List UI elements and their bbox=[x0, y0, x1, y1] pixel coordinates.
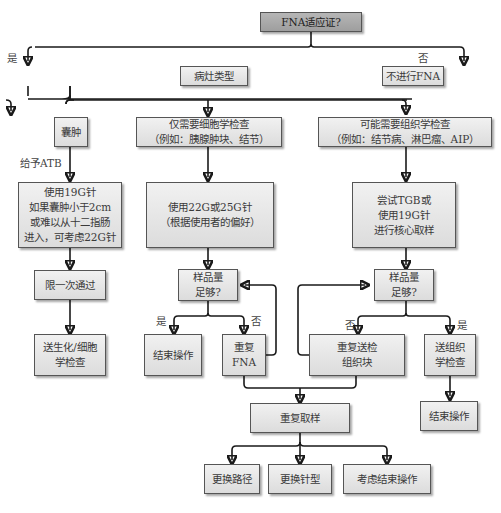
cytology-adequate-node: 样品量 足够? bbox=[178, 269, 238, 301]
change-route-node: 更换路径 bbox=[204, 464, 260, 494]
cytology-end-node: 结束操作 bbox=[144, 334, 202, 376]
histology-needle-node: 尝试TGB或 使用19G针 进行核心取样 bbox=[352, 182, 456, 248]
histology-yes-label: 是 bbox=[457, 317, 467, 332]
root-no-label: 否 bbox=[418, 50, 428, 65]
consider-end-node: 考虑结束操作 bbox=[343, 464, 431, 494]
lesion-type-node: 病灶类型 bbox=[180, 66, 248, 86]
histology-needed-node: 可能需要组织学检查 （例如：结节病、淋巴瘤、AIP） bbox=[318, 117, 492, 147]
cytology-only-node: 仅需要细胞学检查 （例如：胰腺肿块、结节） bbox=[136, 117, 282, 147]
single-pass-node: 限一次通过 bbox=[34, 270, 106, 300]
resample-node: 重复取样 bbox=[250, 403, 350, 433]
cyst-needle-node: 使用19G针 如果囊肿小于2cm 或难以从十二指肠 进入，可考虑22G针 bbox=[18, 182, 122, 248]
fna-indication-node: FNA适应证? bbox=[260, 12, 362, 32]
change-needle-node: 更换针型 bbox=[268, 464, 332, 494]
antibiotics-label: 给予ATB bbox=[20, 155, 62, 170]
histology-no-label: 否 bbox=[345, 317, 355, 332]
root-yes-label: 是 bbox=[7, 50, 17, 65]
cyst-node: 囊肿 bbox=[54, 117, 88, 147]
cytology-yes-label: 是 bbox=[156, 313, 166, 328]
cytology-needle-node: 使用22G或25G针 （根据使用者的偏好） bbox=[146, 182, 274, 248]
send-biochem-cytology-node: 送生化/细胞 学检查 bbox=[34, 334, 106, 376]
cytology-no-label: 否 bbox=[251, 313, 261, 328]
repeat-fna-node: 重复 FNA bbox=[222, 334, 266, 376]
no-fna-node: 不进行FNA bbox=[382, 66, 444, 86]
histology-adequate-node: 样品量 足够? bbox=[374, 269, 434, 301]
repeat-tissue-node: 重复送检 组织块 bbox=[309, 334, 405, 376]
send-histology-node: 送组织 学检查 bbox=[424, 334, 476, 376]
histology-end-node: 结束操作 bbox=[420, 401, 478, 431]
